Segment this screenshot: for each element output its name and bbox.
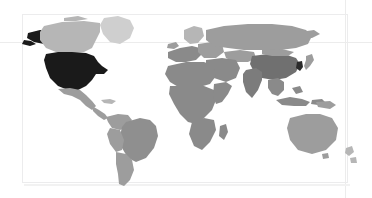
- region-scandinavia[interactable]: [184, 26, 204, 44]
- region-north-africa[interactable]: [165, 62, 216, 88]
- country-central-america[interactable]: [92, 106, 108, 120]
- country-canada[interactable]: [40, 16, 100, 53]
- region-caribbean[interactable]: [101, 99, 116, 104]
- country-papua-new-guinea[interactable]: [316, 101, 336, 109]
- country-russia[interactable]: [206, 24, 320, 50]
- region-southern-africa[interactable]: [189, 118, 216, 150]
- region-southeast-asia[interactable]: [268, 78, 284, 96]
- region-west-central-africa[interactable]: [169, 86, 216, 124]
- country-greenland[interactable]: [100, 16, 134, 44]
- region-tasmania[interactable]: [322, 153, 329, 159]
- country-mongolia[interactable]: [262, 49, 294, 56]
- region-british-isles[interactable]: [167, 42, 179, 49]
- country-mexico[interactable]: [58, 88, 96, 110]
- country-new-zealand[interactable]: [345, 146, 357, 163]
- region-east-africa[interactable]: [213, 82, 232, 104]
- country-united-states[interactable]: [44, 52, 108, 90]
- country-india[interactable]: [243, 68, 262, 98]
- country-madagascar[interactable]: [219, 124, 228, 140]
- figure-canvas: [0, 0, 372, 198]
- country-japan[interactable]: [304, 54, 314, 70]
- country-australia[interactable]: [287, 114, 338, 154]
- map-land-layer: [22, 16, 357, 186]
- world-map[interactable]: [0, 0, 372, 198]
